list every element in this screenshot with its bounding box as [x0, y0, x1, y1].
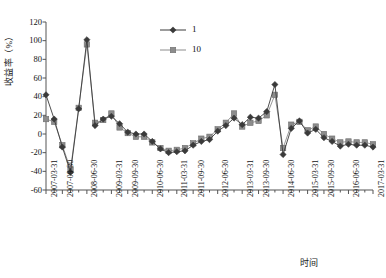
legend-label-1: 1: [192, 24, 197, 34]
y-axis-tick-label: 20: [10, 110, 42, 120]
x-axis-tick-label: 2008-06-30: [90, 160, 99, 197]
x-axis-tick-label: 2012-06-30: [221, 160, 230, 197]
x-axis-tick-label: 2013-09-30: [262, 160, 271, 197]
x-axis-tick-label: 2015-03-31: [311, 160, 320, 197]
x-axis-tick-label: 2011-09-30: [197, 160, 206, 197]
y-axis-tick-label: 120: [10, 17, 42, 27]
x-axis-tick-label: 2007-09-30: [66, 160, 75, 197]
x-axis-tick-label: 2014-06-30: [287, 160, 296, 197]
legend-label-10: 10: [192, 44, 201, 54]
x-axis-tick-label: 2007-03-31: [50, 160, 59, 197]
y-axis-tick-label: -60: [10, 185, 42, 195]
x-axis-tick-label: 2013-03-31: [246, 160, 255, 197]
legend-item-10[interactable]: [160, 47, 186, 52]
legend-item-1[interactable]: [160, 27, 186, 33]
y-axis-tick-label: 40: [10, 91, 42, 101]
series-1: [43, 37, 376, 176]
x-axis-tick-label: 2015-09-30: [327, 160, 336, 197]
y-axis-tick-label: -40: [10, 166, 42, 176]
x-axis-tick-label: 2009-03-31: [115, 160, 124, 197]
x-axis-tick-label: 2017-03-31: [377, 160, 386, 197]
x-axis-tick-label: 2010-06-30: [156, 160, 165, 197]
x-axis-tick-label: 2009-09-30: [131, 160, 140, 197]
y-axis-tick-label: 80: [10, 54, 42, 64]
y-axis-tick-label: -20: [10, 147, 42, 157]
y-axis-tick-label: 100: [10, 35, 42, 45]
x-axis-tick-label: 2011-03-31: [180, 160, 189, 197]
y-axis-tick-label: 0: [10, 129, 42, 139]
y-axis-tick-label: 60: [10, 73, 42, 83]
x-axis-tick-label: 2016-06-30: [352, 160, 361, 197]
